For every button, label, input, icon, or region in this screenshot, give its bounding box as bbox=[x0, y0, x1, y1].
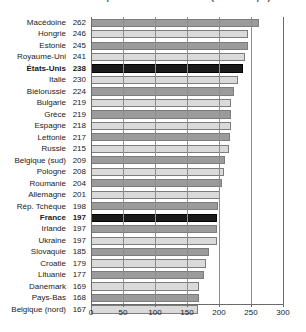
chart-rows: Macédoine262Hongrie246Estonie245Royaume-… bbox=[0, 17, 306, 304]
bar-value-label: 177 bbox=[66, 269, 86, 280]
bar-segment bbox=[91, 225, 217, 233]
bar-category-label: Rép. Tchèque bbox=[17, 201, 66, 212]
bar-value-label: 209 bbox=[66, 155, 86, 166]
chart-bar-row: France197 bbox=[0, 212, 306, 223]
bar-segment bbox=[91, 19, 259, 27]
bar-category-label: Belgique (sud) bbox=[14, 155, 66, 166]
bar-value-label: 262 bbox=[66, 17, 86, 28]
bar-category-label: France bbox=[40, 212, 66, 223]
chart-bar-row: Hongrie246 bbox=[0, 28, 306, 39]
bar-value-label: 197 bbox=[66, 212, 86, 223]
bar-segment bbox=[91, 133, 230, 141]
bar-category-label: Estonie bbox=[39, 40, 66, 51]
chart-bar-row: Belgique (sud)209 bbox=[0, 155, 306, 166]
bar-value-label: 201 bbox=[66, 189, 86, 200]
bar-segment bbox=[91, 53, 245, 61]
bar-value-label: 204 bbox=[66, 178, 86, 189]
bar-segment bbox=[91, 248, 209, 256]
chart-bar-row: Biélorussie224 bbox=[0, 86, 306, 97]
chart-bar-row: Croatie179 bbox=[0, 258, 306, 269]
bar-category-label: Pologne bbox=[37, 166, 66, 177]
bar-value-label: 230 bbox=[66, 74, 86, 85]
bar-value-label: 185 bbox=[66, 246, 86, 257]
bar-category-label: Croatie bbox=[40, 258, 66, 269]
bar-category-label: Slovaquie bbox=[31, 246, 66, 257]
bar-segment bbox=[91, 110, 231, 118]
chart-bar-row: Italie230 bbox=[0, 74, 306, 85]
chart-bar-row: États-Unis238 bbox=[0, 63, 306, 74]
x-axis-line bbox=[91, 304, 283, 305]
bar-value-label: 215 bbox=[66, 143, 86, 154]
bar-segment bbox=[91, 271, 204, 279]
bar-segment bbox=[91, 42, 248, 50]
chart-bar-row: Grèce219 bbox=[0, 109, 306, 120]
bar-segment bbox=[91, 145, 229, 153]
horizontal-bar-chart: Taux de détention pour 100 000 habitants… bbox=[0, 0, 306, 332]
chart-bar-row: Irlande197 bbox=[0, 223, 306, 234]
chart-bar-row: Royaume-Uni241 bbox=[0, 51, 306, 62]
chart-bar-row: Estonie245 bbox=[0, 40, 306, 51]
bar-segment bbox=[91, 259, 206, 267]
bar-segment bbox=[91, 168, 224, 176]
bar-segment bbox=[91, 305, 198, 313]
bar-segment bbox=[91, 99, 231, 107]
bar-category-label: Irlande bbox=[42, 223, 66, 234]
chart-title-clipped: Taux de détention pour 100 000 habitants… bbox=[0, 0, 306, 6]
bar-value-label: 197 bbox=[66, 235, 86, 246]
chart-bar-row: Allemagne201 bbox=[0, 189, 306, 200]
chart-bar-row: Roumanie204 bbox=[0, 178, 306, 189]
bar-category-label: Roumanie bbox=[30, 178, 66, 189]
bar-category-label: Belgique (nord) bbox=[11, 304, 66, 315]
chart-bar-row: Lituanie177 bbox=[0, 269, 306, 280]
bar-category-label: Lettonie bbox=[38, 132, 66, 143]
bar-segment bbox=[91, 64, 243, 72]
chart-bar-row: Russie215 bbox=[0, 143, 306, 154]
chart-bar-row: Belgique (nord)167 bbox=[0, 304, 306, 315]
bar-value-label: 179 bbox=[66, 258, 86, 269]
bar-category-label: Allemagne bbox=[28, 189, 66, 200]
bar-segment bbox=[91, 76, 238, 84]
bar-value-label: 238 bbox=[66, 63, 86, 74]
bar-category-label: Lituanie bbox=[38, 269, 66, 280]
bar-value-label: 219 bbox=[66, 97, 86, 108]
chart-bar-row: Pologne208 bbox=[0, 166, 306, 177]
chart-bar-row: Pays-Bas168 bbox=[0, 292, 306, 303]
bar-segment bbox=[91, 191, 220, 199]
bar-category-label: Italie bbox=[49, 74, 66, 85]
bar-value-label: 168 bbox=[66, 292, 86, 303]
chart-bar-row: Slovaquie185 bbox=[0, 246, 306, 257]
bar-segment bbox=[91, 30, 248, 38]
bar-segment bbox=[91, 156, 225, 164]
bar-category-label: Bulgarie bbox=[37, 97, 66, 108]
chart-title-text: Taux de détention pour 100 000 habitants… bbox=[24, 0, 271, 2]
bar-value-label: 217 bbox=[66, 132, 86, 143]
chart-bar-row: Ukraine197 bbox=[0, 235, 306, 246]
bar-category-label: Royaume-Uni bbox=[17, 51, 66, 62]
footnote-clipped bbox=[8, 322, 158, 327]
bar-segment bbox=[91, 87, 234, 95]
bar-value-label: 219 bbox=[66, 109, 86, 120]
bar-value-label: 224 bbox=[66, 86, 86, 97]
chart-bar-row: Danemark169 bbox=[0, 281, 306, 292]
bar-category-label: Biélorussie bbox=[27, 86, 66, 97]
chart-bar-row: Lettonie217 bbox=[0, 132, 306, 143]
chart-bar-row: Espagne218 bbox=[0, 120, 306, 131]
bar-category-label: Hongrie bbox=[38, 28, 66, 39]
bar-category-label: Grèce bbox=[44, 109, 66, 120]
chart-bar-row: Bulgarie219 bbox=[0, 97, 306, 108]
bar-category-label: Pays-Bas bbox=[32, 292, 66, 303]
bar-category-label: Russie bbox=[42, 143, 66, 154]
chart-bar-row: Rép. Tchèque198 bbox=[0, 201, 306, 212]
bar-value-label: 245 bbox=[66, 40, 86, 51]
bar-segment bbox=[91, 237, 217, 245]
bar-category-label: Macédoine bbox=[27, 17, 66, 28]
bar-value-label: 167 bbox=[66, 304, 86, 315]
bar-segment bbox=[91, 214, 217, 222]
bar-category-label: Espagne bbox=[34, 120, 66, 131]
bar-segment bbox=[91, 179, 222, 187]
bar-segment bbox=[91, 122, 231, 130]
bar-value-label: 197 bbox=[66, 223, 86, 234]
bar-category-label: Ukraine bbox=[38, 235, 66, 246]
bar-value-label: 241 bbox=[66, 51, 86, 62]
bar-value-label: 198 bbox=[66, 201, 86, 212]
